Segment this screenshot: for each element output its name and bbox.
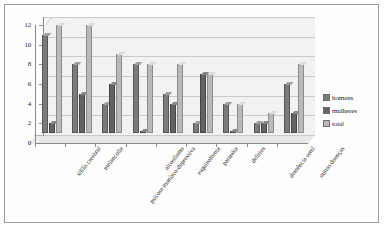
x-axis-label: paranóia [220, 145, 239, 166]
y-axis-tick-label: 10 [7, 41, 31, 49]
bar-top-face [299, 62, 307, 65]
bar-group [35, 15, 65, 133]
x-axis-category-labels: sífilis cerebralmelancoliapsicose maníac… [35, 145, 335, 221]
bar-top-face [285, 82, 293, 85]
y-axis-tick-label: 2 [7, 119, 31, 127]
legend-item-mulheres: mulheres [323, 104, 381, 117]
bar-homens [102, 104, 108, 134]
bar-total [147, 64, 153, 133]
bar-mulheres [291, 113, 297, 133]
bar-group [95, 15, 125, 133]
bar-top-face [87, 23, 95, 26]
x-axis [35, 143, 307, 144]
legend-label: mulheres [332, 107, 357, 115]
bar-homens [72, 64, 78, 133]
legend-label: homens [332, 94, 353, 102]
plot-area: 024681012 [35, 17, 315, 141]
legend-item-total: total [323, 117, 381, 130]
bar-group [65, 15, 95, 133]
legend-swatch-icon [323, 107, 330, 114]
y-axis-tick-label: 6 [7, 80, 31, 88]
bar-top-face [178, 62, 186, 65]
y-axis-tick-label: 4 [7, 100, 31, 108]
bar-mulheres [170, 104, 176, 134]
bar-mulheres [140, 131, 146, 133]
bar-top-face [73, 62, 81, 65]
bar-mulheres [109, 84, 115, 133]
bar-total [116, 54, 122, 133]
bar-mulheres [230, 131, 236, 133]
x-axis-label: outras doenças [317, 145, 345, 179]
y-axis-tick-label: 12 [7, 21, 31, 29]
legend-swatch-icon [323, 94, 330, 101]
bar-top-face [208, 72, 216, 75]
bar-group [247, 15, 277, 133]
bar-total [237, 104, 243, 134]
chart-frame: 024681012 sífilis cerebralmelancoliapsic… [4, 4, 379, 223]
bar-top-face [269, 111, 277, 114]
bar-top-face [238, 102, 246, 105]
bar-mulheres [261, 123, 267, 133]
y-axis-tick-label: 8 [7, 60, 31, 68]
bar-total [207, 74, 213, 133]
x-axis-label: esquizofrenia [195, 145, 221, 176]
bar-total [177, 64, 183, 133]
bar-top-face [57, 23, 65, 26]
x-axis-label: delírios [250, 145, 267, 164]
bar-top-face [43, 33, 51, 36]
bar-homens [42, 35, 48, 133]
bar-homens [163, 94, 169, 133]
bar-group [156, 15, 186, 133]
legend-item-homens: homens [323, 91, 381, 104]
bar-homens [284, 84, 290, 133]
x-axis-label: sífilis cerebral [75, 145, 102, 177]
bar-total [268, 113, 274, 133]
bar-top-face [134, 62, 142, 65]
legend-label: total [332, 120, 344, 128]
bar-homens [254, 123, 260, 133]
x-axis-label: demência senil [287, 145, 316, 179]
bar-mulheres [200, 74, 206, 133]
bar-top-face [117, 52, 125, 55]
y-axis-tick-label: 0 [7, 139, 31, 147]
bar-top-face [148, 62, 156, 65]
bar-group [126, 15, 156, 133]
bar-homens [193, 123, 199, 133]
bar-group [186, 15, 216, 133]
bar-homens [133, 64, 139, 133]
gridline [43, 135, 315, 136]
bar-top-face [164, 92, 172, 95]
x-axis-label: melancolia [102, 145, 124, 171]
bar-top-face [224, 102, 232, 105]
bar-group [216, 15, 246, 133]
bar-total [56, 25, 62, 133]
bar-homens [223, 104, 229, 134]
bar-mulheres [79, 94, 85, 133]
legend-swatch-icon [323, 120, 330, 127]
bar-total [86, 25, 92, 133]
chart-legend: homensmulherestotal [323, 91, 381, 130]
bar-group [277, 15, 307, 133]
bar-mulheres [49, 123, 55, 133]
bar-total [298, 64, 304, 133]
